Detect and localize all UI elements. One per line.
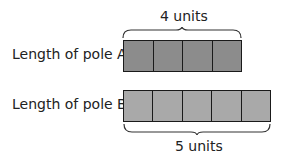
unit-label-b: 5 units [175, 138, 223, 154]
unit-cell [124, 91, 153, 121]
brace-top-a [121, 27, 243, 39]
unit-label-a: 4 units [160, 8, 208, 24]
pole-a-label: Length of pole A [12, 46, 127, 62]
unit-cell [183, 91, 212, 121]
pole-b-bar [123, 90, 271, 122]
unit-cell [154, 41, 184, 71]
unit-cell [213, 41, 242, 71]
brace-bottom-b [122, 123, 272, 135]
pole-b-label: Length of pole B [12, 96, 127, 112]
unit-cell [183, 41, 213, 71]
unit-cell [242, 91, 270, 121]
unit-cell [153, 91, 182, 121]
unit-cell [124, 41, 154, 71]
unit-cell [212, 91, 241, 121]
pole-a-bar [123, 40, 242, 72]
